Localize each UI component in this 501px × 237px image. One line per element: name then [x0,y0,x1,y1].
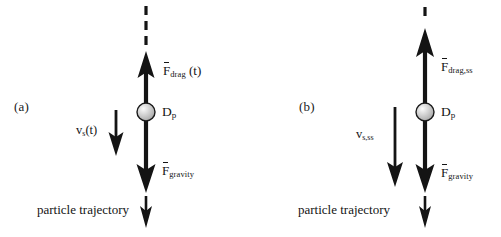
gravity-force-label-b: Fgravity [441,166,473,179]
particle-diameter-label-a: Dp [162,105,176,119]
trajectory-arrow-b [419,196,431,228]
drag-force-argument-a: (t) [189,63,201,78]
settling-velocity-label-b: vs,ss [356,128,374,141]
settling-velocity-argument-a: (t) [85,123,97,137]
force-diagram-figure: (a) [0,0,501,237]
gravity-force-subscript-a: gravity [169,169,194,179]
gravity-force-subscript-b: gravity [448,171,473,181]
gravity-force-arrow-b [416,112,435,193]
trajectory-label-a: particle trajectory [37,203,129,216]
trajectory-label-b: particle trajectory [298,203,390,216]
drag-force-label-b: Fdrag,ss [441,60,473,73]
particle-diameter-subscript-b: p [451,110,456,120]
trajectory-arrow-a [140,196,152,228]
settling-velocity-label-a: vs(t) [76,124,97,137]
particle-sphere-b [416,103,434,121]
particle-diameter-symbol-b: D [441,104,451,119]
drag-force-subscript-b: drag,ss [448,65,473,75]
particle-sphere-a [137,103,155,121]
drag-force-label-a: Fdrag (t) [163,64,201,77]
particle-diameter-symbol-a: D [162,104,172,119]
particle-diameter-label-b: Dp [441,105,455,119]
settling-velocity-subscript-a: s [82,129,85,138]
settling-velocity-arrow-b [387,107,403,187]
panel-b: (b) [251,0,501,237]
gravity-force-label-a: Fgravity [162,164,194,177]
gravity-force-arrow-a [137,112,156,193]
drag-force-subscript-a: drag [170,69,186,79]
settling-velocity-arrow-a [109,110,124,156]
settling-velocity-subscript-b: s,ss [362,133,373,142]
drag-force-arrow-b [416,28,434,112]
panel-a: (a) [0,0,250,237]
particle-diameter-subscript-a: p [172,110,177,120]
